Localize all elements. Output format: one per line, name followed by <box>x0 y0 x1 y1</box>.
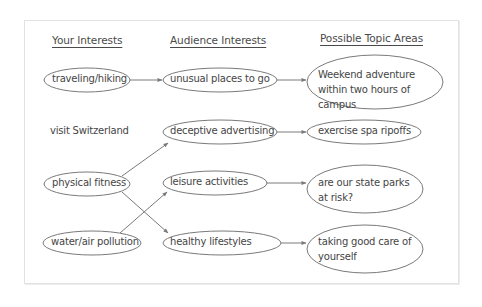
your-interest-water-air-pollution: water/air pollution <box>51 236 139 247</box>
audience-interest-unusual-places: unusual places to go <box>170 73 270 84</box>
audience-interest-healthy-lifestyles: healthy lifestyles <box>170 236 252 247</box>
audience-interest-deceptive-advertising: deceptive advertising <box>170 125 274 136</box>
your-interest-traveling-hiking: traveling/hiking <box>52 73 127 84</box>
topic-state-parks: are our state parks at risk? <box>318 175 418 205</box>
arrow-fitness-to-deceptive <box>122 143 168 176</box>
arrow-fitness-to-healthy <box>122 192 168 233</box>
topic-good-care: taking good care of yourself <box>318 234 418 264</box>
audience-interest-leisure-activities: leisure activities <box>170 176 248 187</box>
header-your-interests: Your Interests <box>52 34 122 46</box>
arrow-pollution-to-leisure <box>120 192 167 233</box>
header-topic-areas: Possible Topic Areas <box>320 32 423 44</box>
your-interest-visit-switzerland: visit Switzerland <box>50 125 129 136</box>
topic-weekend-adventure: Weekend adventure within two hours of ca… <box>318 67 440 112</box>
topic-exercise-spa-ripoffs: exercise spa ripoffs <box>318 125 411 136</box>
header-audience-interests: Audience Interests <box>170 34 266 46</box>
your-interest-physical-fitness: physical fitness <box>52 177 126 188</box>
